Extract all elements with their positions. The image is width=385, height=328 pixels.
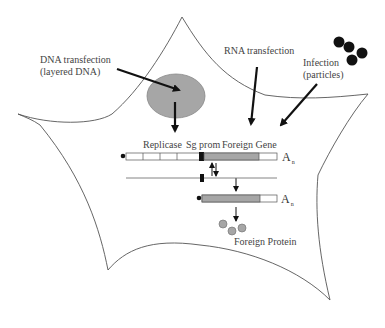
diagram-canvas xyxy=(0,0,385,328)
rna-transfection-arrow xyxy=(251,67,257,124)
replicase-label: Replicase xyxy=(143,139,182,151)
sg-prom-label: Sg prom xyxy=(186,139,220,151)
foreign-gene-label: Foreign Gene xyxy=(222,139,277,151)
infection-label-line2: (particles) xyxy=(303,69,344,81)
poly-a-tail-genomic-subscript: n xyxy=(292,159,295,165)
foreign-gene-segment xyxy=(204,153,259,160)
subgenomic-foreign-gene xyxy=(202,195,260,202)
rna-transfection-label: RNA transfection xyxy=(224,45,294,57)
dna-transfection-label: DNA transfection (layered DNA) xyxy=(40,54,111,78)
sg-promoter-block xyxy=(199,152,204,161)
negative-strand xyxy=(126,174,277,182)
subgenomic-cap xyxy=(197,196,202,201)
infection-label: Infection (particles) xyxy=(303,57,344,81)
infection-arrow xyxy=(281,84,317,125)
foreign-protein-particles xyxy=(219,220,246,235)
subgenomic-rna xyxy=(197,195,277,202)
poly-a-tail-subgenomic: An xyxy=(281,193,294,210)
genomic-rna xyxy=(121,152,277,161)
poly-a-tail-subgenomic-letter: A xyxy=(281,192,290,206)
dna-transfection-label-line1: DNA transfection xyxy=(40,54,111,66)
poly-a-tail-subgenomic-subscript: n xyxy=(291,201,294,207)
genomic-cap xyxy=(121,154,126,159)
infection-label-line1: Infection xyxy=(303,57,344,69)
negative-strand-promoter xyxy=(200,174,204,182)
foreign-protein-label: Foreign Protein xyxy=(234,236,297,248)
dna-transfection-label-line2: (layered DNA) xyxy=(40,66,111,78)
poly-a-tail-genomic: An xyxy=(282,151,295,168)
poly-a-tail-genomic-letter: A xyxy=(282,150,291,164)
